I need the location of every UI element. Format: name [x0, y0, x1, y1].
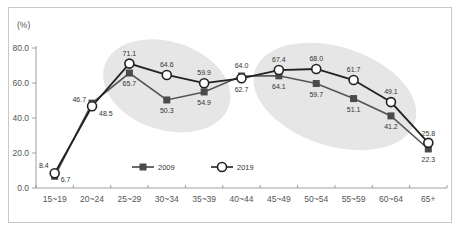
data-label-2019: 67.4 [272, 56, 286, 63]
highlight-ellipse-2 [240, 23, 430, 169]
data-label-2019: 25.8 [422, 130, 436, 137]
data-label-2019: 61.7 [347, 66, 361, 73]
legend-label-2019: 2019 [237, 163, 254, 172]
marker-2009 [163, 96, 170, 103]
data-label-2019: 46.7 [72, 96, 86, 103]
data-label-2009: 59.7 [309, 91, 323, 98]
data-label-2019: 68.0 [309, 55, 323, 62]
marker-2009 [350, 95, 357, 102]
highlight-group [91, 23, 430, 169]
y-tick-label: 20.0 [12, 148, 29, 158]
legend: 20092019 [132, 163, 254, 173]
data-label-2009: 65.7 [123, 80, 137, 87]
marker-2019 [125, 59, 134, 68]
x-tick-label: 20~24 [80, 194, 104, 204]
x-tick-label: 50~54 [304, 194, 328, 204]
y-axis-label: (%) [17, 20, 30, 30]
marker-2009 [201, 88, 208, 95]
marker-2019 [424, 138, 433, 147]
marker-2009 [126, 70, 133, 77]
data-label-2009: 22.3 [422, 156, 436, 163]
data-label-2019: 8.4 [39, 162, 49, 169]
x-tick-label: 65+ [421, 194, 435, 204]
line-chart: 0.020.040.060.080.015~1920~2425~2930~343… [0, 0, 460, 230]
marker-2019 [386, 98, 395, 107]
x-tick-label: 15~19 [43, 194, 67, 204]
x-tick-label: 30~34 [155, 194, 179, 204]
data-label-2019: 62.7 [235, 86, 249, 93]
marker-2019 [237, 74, 246, 83]
marker-2019 [88, 102, 97, 111]
x-tick-label: 35~39 [192, 194, 216, 204]
marker-2019 [50, 169, 59, 178]
y-tick-label: 60.0 [12, 78, 29, 88]
x-tick-label: 55~59 [342, 194, 366, 204]
x-tick-label: 40~44 [230, 194, 254, 204]
marker-2019 [274, 66, 283, 75]
marker-2019 [200, 79, 209, 88]
data-label-2019: 49.1 [384, 88, 398, 95]
marker-2009 [387, 112, 394, 119]
y-tick-label: 80.0 [12, 43, 29, 53]
legend-marker-2019 [218, 163, 227, 172]
data-label-2009: 41.2 [384, 123, 398, 130]
data-label-2019: 59.9 [197, 69, 211, 76]
data-label-2009: 48.5 [99, 110, 113, 117]
data-label-2019: 71.1 [123, 50, 137, 57]
data-label-2009: 50.3 [160, 107, 174, 114]
data-label-2009: 64.0 [235, 62, 249, 69]
marker-2009 [313, 80, 320, 87]
data-label-2009: 6.7 [61, 176, 71, 183]
data-label-2019: 64.6 [160, 61, 174, 68]
marker-2019 [349, 76, 358, 85]
marker-2019 [312, 65, 321, 74]
x-tick-label: 60~64 [379, 194, 403, 204]
y-tick-label: 0.0 [17, 183, 29, 193]
marker-2019 [162, 70, 171, 79]
data-label-2009: 54.9 [197, 99, 211, 106]
x-tick-label: 45~49 [267, 194, 291, 204]
legend-label-2009: 2009 [158, 163, 175, 172]
legend-marker-2009 [140, 164, 147, 171]
y-tick-label: 40.0 [12, 113, 29, 123]
x-tick-label: 25~29 [117, 194, 141, 204]
data-label-2009: 51.1 [347, 106, 361, 113]
data-label-2009: 64.1 [272, 83, 286, 90]
